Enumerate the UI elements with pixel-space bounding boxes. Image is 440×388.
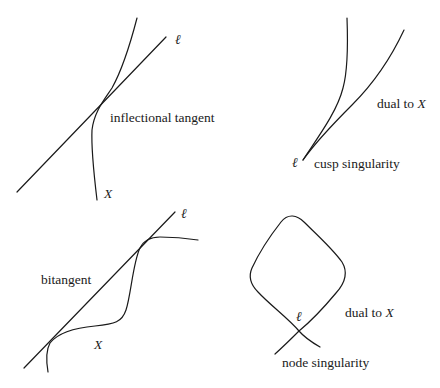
node-loop-curve	[250, 216, 345, 354]
bitangent-curve-label: X	[94, 338, 102, 352]
bitangent-panel	[24, 212, 198, 372]
cusp-dual-label: dual to X	[377, 97, 426, 111]
node-caption: node singularity	[282, 356, 369, 370]
inflection-curve-label: X	[104, 187, 112, 201]
curve-x-inflection	[92, 18, 137, 200]
node-dual-label: dual to X	[345, 306, 394, 320]
node-panel	[250, 216, 345, 354]
bitangent-line-label: ℓ	[181, 207, 187, 221]
cusp-dual-var: X	[418, 96, 426, 111]
cusp-dual-prefix: dual to	[377, 96, 418, 111]
inflection-line-label: ℓ	[175, 33, 181, 47]
node-point-label: ℓ	[296, 310, 302, 324]
inflection-panel	[17, 18, 166, 200]
diagram-svg	[0, 0, 440, 388]
diagram-canvas: ℓ inflectional tangent X dual to X ℓ cus…	[0, 0, 440, 388]
cusp-caption: cusp singularity	[314, 157, 400, 171]
cusp-left-branch	[303, 18, 348, 160]
inflection-caption: inflectional tangent	[110, 111, 215, 125]
node-dual-var: X	[386, 305, 394, 320]
cusp-right-branch	[303, 30, 404, 160]
cusp-point-label: ℓ	[292, 156, 298, 170]
node-dual-prefix: dual to	[345, 305, 386, 320]
curve-x-bitangent	[47, 237, 198, 372]
bitangent-caption: bitangent	[41, 273, 91, 287]
cusp-panel	[303, 18, 404, 160]
